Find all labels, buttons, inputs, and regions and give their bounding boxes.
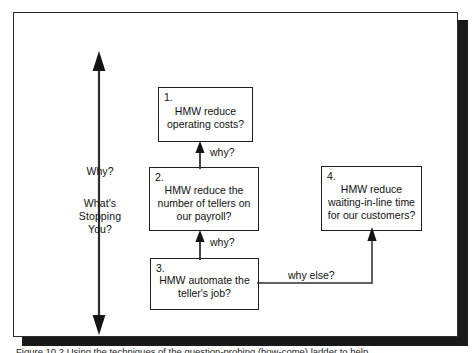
node-box-2[interactable]: 2. HMW reduce the number of tellers on o… [149, 167, 259, 231]
node-text-3: HMW automate the teller's job? [153, 274, 256, 300]
axis-label-whats-stopping-you: What's Stopping You? [61, 197, 139, 236]
axis-label-why: Why? [61, 165, 139, 178]
edge-label-why-else-node3-to-node4: why else? [288, 269, 335, 281]
node-number-2: 2. [155, 171, 164, 183]
node-number-1: 1. [164, 91, 173, 103]
node-number-3: 3. [156, 262, 165, 274]
figure-page: Why? What's Stopping You? 1. HMW reduce … [0, 0, 474, 353]
figure-frame: Why? What's Stopping You? 1. HMW reduce … [13, 12, 458, 337]
arrow-up-icon-node3-to-node2 [192, 230, 208, 260]
arrow-up-icon-node2-to-node1 [192, 141, 208, 169]
double-headed-vertical-arrow-icon [86, 51, 112, 337]
node-number-4: 4. [327, 170, 336, 182]
node-text-4: HMW reduce waiting-in-line time for our … [324, 183, 419, 222]
node-text-1: HMW reduce operating costs? [161, 105, 250, 131]
edge-label-why-node2-to-node1: why? [210, 146, 235, 158]
figure-caption: Figure 10.2 Using the techniques of the … [16, 346, 468, 353]
node-box-1[interactable]: 1. HMW reduce operating costs? [158, 87, 253, 142]
node-box-3[interactable]: 3. HMW automate the teller's job? [150, 258, 259, 310]
node-box-4[interactable]: 4. HMW reduce waiting-in-line time for o… [321, 166, 422, 231]
edge-label-why-node3-to-node2: why? [210, 236, 235, 248]
node-text-2: HMW reduce the number of tellers on our … [152, 184, 256, 223]
